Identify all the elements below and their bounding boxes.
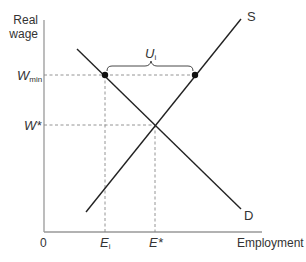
supply-at-wmin-point xyxy=(192,72,198,78)
estar-label: E* xyxy=(149,235,164,250)
supply-label: S xyxy=(247,9,256,24)
demand-at-wmin-point xyxy=(102,72,108,78)
ui-label: Ui xyxy=(145,46,156,62)
y-axis-label-line2: wage xyxy=(8,27,38,41)
x-axis-label: Employment xyxy=(237,236,304,250)
ei-label: Ei xyxy=(100,235,111,251)
supply-curve xyxy=(86,19,241,212)
unemployment-brace xyxy=(107,61,193,71)
demand-label: D xyxy=(244,208,253,223)
wmin-label: Wmin xyxy=(17,68,42,84)
wstar-label: W* xyxy=(24,118,42,133)
demand-curve xyxy=(77,49,241,209)
origin-label: 0 xyxy=(40,236,47,250)
y-axis-label-line1: Real xyxy=(13,13,38,27)
labour-market-diagram: Real wage Wmin W* 0 Ei E* Employment Ui … xyxy=(0,0,306,262)
